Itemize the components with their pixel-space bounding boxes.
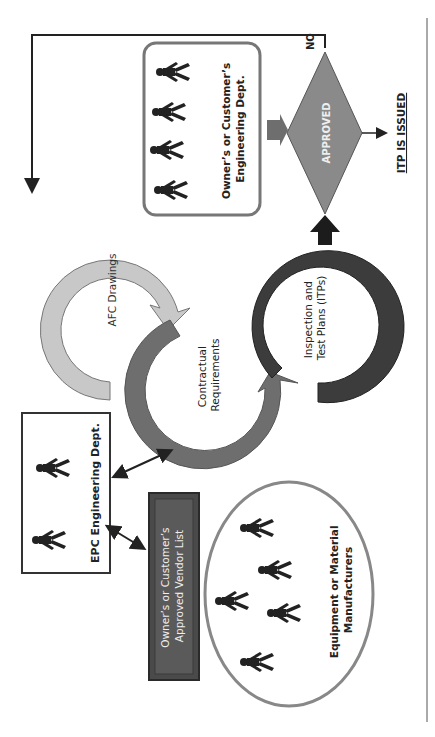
- owner-engineering-dept-node: Owner’s or Customer’s Engineering Dept.: [144, 43, 260, 215]
- svg-text:Contractual Requirements: Contractual Requirements: [196, 339, 221, 412]
- epc-vendor-arrow: [115, 531, 143, 548]
- owner-eng-label-1: Owner’s or Customer’s: [220, 63, 232, 199]
- itp-issued-label: ITP IS ISSUED: [395, 92, 407, 173]
- itp-issued-text: ITP IS ISSUED: [395, 92, 407, 173]
- itp-to-decision-arrow: [310, 215, 340, 245]
- epc-contractual-arrow: [122, 451, 170, 473]
- contractual-label-1: Contractual: [196, 346, 208, 407]
- itp-label-2: Test Plans (ITPs): [315, 276, 327, 361]
- approved-label: APPROVED: [321, 102, 332, 163]
- owner-to-decision-arrow: [267, 114, 288, 146]
- approved-decision-node: APPROVED NO: [287, 33, 362, 214]
- vendor-label-2: Approved Vendor List: [173, 530, 185, 642]
- no-label: NO: [305, 33, 316, 50]
- manufacturers-label-1: Equipment or Material: [328, 525, 340, 658]
- itp-label-1: Inspection and: [302, 281, 314, 358]
- epc-label: EPC Engineering Dept.: [89, 423, 102, 563]
- epc-engineering-dept-node: EPC Engineering Dept.: [22, 413, 110, 573]
- manufacturers-node: Equipment or Material Manufacturers: [205, 482, 373, 706]
- owner-eng-label-2: Engineering Dept.: [234, 75, 246, 182]
- diagram-canvas: Owner’s or Customer’s Engineering Dept. …: [0, 0, 435, 737]
- approved-vendor-list-node: Owner’s or Customer’s Approved Vendor Li…: [149, 493, 199, 680]
- afc-label: AFC Drawings: [106, 253, 118, 326]
- contractual-label-2: Requirements: [209, 339, 221, 412]
- svg-text:Inspection and Test Plan: Inspection and Test Plans (ITPs): [302, 276, 327, 361]
- manufacturers-label-2: Manufacturers: [342, 547, 354, 634]
- contractual-requirements-node: Contractual Requirements: [125, 320, 298, 469]
- vendor-label-1: Owner’s or Customer’s: [159, 528, 171, 648]
